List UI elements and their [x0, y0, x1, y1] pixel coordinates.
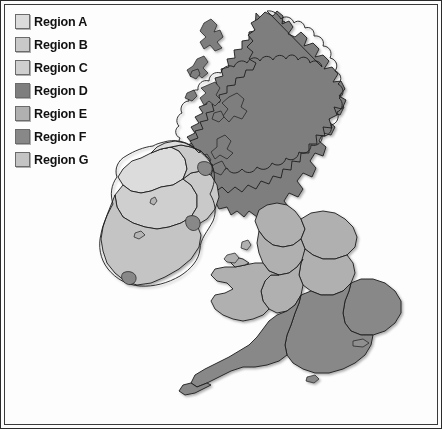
legend-swatch-region-f [15, 129, 30, 144]
legend-label-region-a: Region A [34, 14, 87, 29]
map-figure: Region A Region B Region C Region D Regi… [0, 0, 442, 429]
legend-item-region-e[interactable]: Region E [15, 102, 92, 125]
legend-item-region-c[interactable]: Region C [15, 56, 92, 79]
legend-label-region-f: Region F [34, 129, 86, 144]
legend-label-region-e: Region E [34, 106, 87, 121]
legend-label-region-c: Region C [34, 60, 88, 75]
map-area-isle-of-wight[interactable] [306, 375, 319, 383]
legend-swatch-region-c [15, 60, 30, 75]
map-area-small-isle-b[interactable] [185, 90, 197, 101]
legend-label-region-d: Region D [34, 83, 88, 98]
legend-swatch-region-d [15, 83, 30, 98]
legend-label-region-b: Region B [34, 37, 88, 52]
map-area-isle-of-man[interactable] [241, 240, 251, 250]
legend-item-region-d[interactable]: Region D [15, 79, 92, 102]
map-area-outer-hebrides-north[interactable] [200, 19, 223, 51]
map-area-east-anglia[interactable] [343, 279, 401, 335]
legend: Region A Region B Region C Region D Regi… [15, 10, 92, 171]
legend-swatch-region-a [15, 14, 30, 29]
legend-swatch-region-e [15, 106, 30, 121]
legend-swatch-region-g [15, 152, 30, 167]
legend-item-region-f[interactable]: Region F [15, 125, 92, 148]
legend-swatch-region-b [15, 37, 30, 52]
map-area-cork-patch[interactable] [122, 272, 137, 285]
legend-item-region-g[interactable]: Region G [15, 148, 92, 171]
legend-item-region-a[interactable]: Region A [15, 10, 92, 33]
legend-item-region-b[interactable]: Region B [15, 33, 92, 56]
legend-label-region-g: Region G [34, 152, 88, 167]
